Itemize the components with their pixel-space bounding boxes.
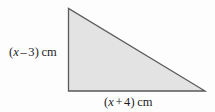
height-dimension-label: (x–3)cm: [9, 46, 57, 59]
base-operator: +: [114, 95, 124, 109]
right-triangle-figure: (x–3)cm (x+4)cm: [0, 0, 215, 112]
base-dimension-label: (x+4)cm: [104, 96, 153, 109]
base-unit: cm: [135, 95, 153, 109]
height-unit: cm: [39, 45, 57, 59]
triangle-polygon: [69, 9, 206, 92]
height-operator: –: [19, 45, 28, 59]
